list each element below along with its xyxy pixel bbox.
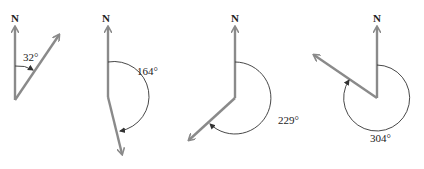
angle-label: 229° [278,115,299,126]
angle-label: 304° [370,133,391,144]
bearing-arrow-icon [15,35,59,100]
angle-label: 164° [137,66,158,77]
bearing-figure [0,0,424,169]
bearing-arrow-icon [314,55,377,98]
angle-label: 32° [23,52,38,63]
north-label: N [231,13,239,24]
bearing-arrow-icon [108,97,122,154]
bearing-diagram-229 [189,27,271,140]
bearing-diagram-164 [108,27,149,154]
angle-arc-icon [210,62,271,134]
bearing-diagram-304 [314,27,410,131]
north-label: N [102,13,110,24]
north-label: N [373,13,381,24]
angle-arc-icon [15,66,33,70]
north-label: N [11,13,19,24]
bearing-diagram-32 [15,27,59,100]
